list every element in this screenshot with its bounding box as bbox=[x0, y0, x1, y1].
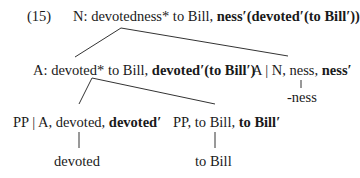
edge-root-to-a bbox=[75, 28, 121, 57]
edge-a-to-pp bbox=[92, 78, 215, 104]
edge-root-to-ness bbox=[121, 28, 288, 56]
to-bill-leaf: to Bill bbox=[195, 153, 232, 169]
root-node: N: devotedness* to Bill, ness′(devoted′(… bbox=[73, 8, 360, 24]
devoted-leaf: devoted bbox=[54, 153, 100, 169]
root-node-semantics: ness′(devoted′(to Bill′)) bbox=[217, 8, 360, 24]
a-node-semantics: devoted′(to Bill′) bbox=[152, 62, 256, 78]
pp-node-semantics: to Bill′ bbox=[239, 114, 281, 130]
pp-node: PP, to Bill, to Bill′ bbox=[173, 114, 280, 130]
pp-a-node: PP | A, devoted, devoted′ bbox=[13, 114, 161, 130]
pp-a-node-plain: PP | A, devoted, bbox=[13, 114, 109, 130]
edge-a-to-pp-a bbox=[79, 78, 92, 104]
example-number: (15) bbox=[27, 8, 51, 24]
root-node-plain: N: devotedness* to Bill, bbox=[73, 8, 217, 24]
pp-node-plain: PP, to Bill, bbox=[173, 114, 239, 130]
a-node: A: devoted* to Bill, devoted′(to Bill′) bbox=[33, 62, 255, 78]
ness-node: A | N, ness, ness′ bbox=[252, 62, 352, 78]
ness-leaf: -ness bbox=[287, 89, 317, 105]
a-node-plain: A: devoted* to Bill, bbox=[33, 62, 152, 78]
ness-node-plain: A | N, ness, bbox=[252, 62, 322, 78]
ness-node-semantics: ness′ bbox=[322, 62, 352, 78]
pp-a-node-semantics: devoted′ bbox=[109, 114, 161, 130]
